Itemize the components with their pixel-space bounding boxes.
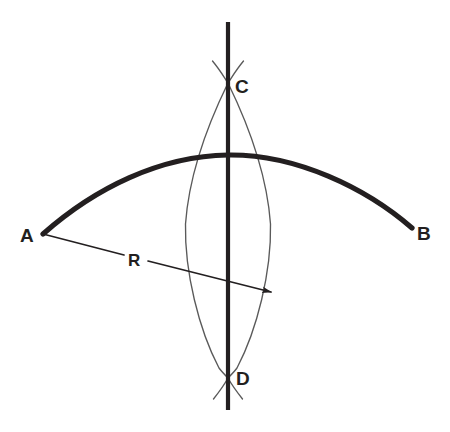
- label-point-a: A: [20, 225, 34, 246]
- radius-line-segment-left: [43, 234, 124, 255]
- compass-arc-from-b: [228, 61, 271, 399]
- label-radius-r: R: [128, 251, 140, 270]
- geometry-diagram: A B C D R: [0, 0, 450, 432]
- compass-arc-from-a: [185, 61, 228, 399]
- label-point-c: C: [235, 76, 249, 97]
- radius-line-segment-right: [148, 261, 271, 292]
- construction-figure-svg: A B C D R: [0, 0, 450, 432]
- label-point-d: D: [236, 368, 250, 389]
- label-point-b: B: [417, 223, 431, 244]
